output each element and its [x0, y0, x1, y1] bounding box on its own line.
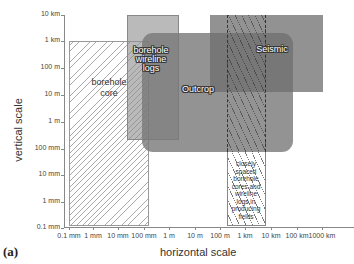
y-tick: 10 km	[41, 10, 60, 17]
label-producing-fields: closely spaced borehole cores and wireli…	[228, 160, 264, 220]
y-axis-line	[64, 15, 65, 228]
x-tick: 100 m	[210, 232, 229, 239]
x-tick: 1 mm	[84, 232, 102, 239]
x-axis-title: horizontal scale	[160, 246, 236, 258]
label-outcrop: Outcrop	[178, 85, 218, 94]
x-tick: 10 km	[261, 232, 280, 239]
y-tick: 1 mm	[43, 197, 61, 204]
x-tick: 100 km	[286, 232, 309, 239]
y-tick: 100 mm	[35, 144, 60, 151]
x-tick: 100 mm	[131, 232, 156, 239]
y-tick: 10 mm	[39, 170, 60, 177]
y-tick: 1 km	[45, 36, 60, 43]
y-tick: 1 m	[48, 117, 60, 124]
label-borehole-wireline-logs: borehole wireline logs	[128, 46, 174, 73]
x-tick: 10 mm	[107, 232, 128, 239]
x-tick: 1000 km	[309, 232, 336, 239]
figure-label: (a)	[3, 244, 18, 260]
x-tick: 1 km	[237, 232, 252, 239]
y-tick: 100 m	[41, 63, 60, 70]
label-borehole-core: borehole core	[84, 77, 134, 99]
y-tick: 10 m	[44, 90, 60, 97]
x-axis-line	[64, 227, 354, 228]
x-tick: 0.1 mm	[57, 232, 80, 239]
x-tick: 10 m	[187, 232, 203, 239]
x-tick: 1 m	[163, 232, 175, 239]
label-seismic: Seismic	[252, 45, 292, 54]
y-tick: 0.1 mm	[37, 223, 60, 230]
y-axis-title: vertical scale	[12, 90, 24, 170]
fields-column-upper	[227, 15, 266, 152]
